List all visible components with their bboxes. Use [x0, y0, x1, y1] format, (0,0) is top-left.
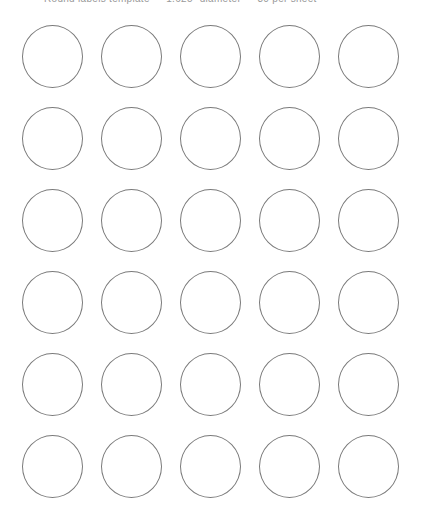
label-circle — [180, 353, 241, 416]
label-circle — [259, 189, 320, 252]
label-circle — [22, 107, 83, 170]
label-circle — [180, 25, 241, 88]
label-circle — [338, 189, 399, 252]
label-circle — [22, 25, 83, 88]
label-circle — [259, 353, 320, 416]
label-circle — [338, 353, 399, 416]
label-sheet — [0, 0, 423, 525]
label-circle — [180, 189, 241, 252]
label-circle — [180, 435, 241, 498]
label-circle — [101, 25, 162, 88]
label-circle — [101, 271, 162, 334]
label-circle — [338, 271, 399, 334]
label-circle — [180, 107, 241, 170]
label-circle — [101, 353, 162, 416]
label-circle — [338, 435, 399, 498]
label-circle — [101, 189, 162, 252]
label-circle — [22, 189, 83, 252]
label-circle — [22, 435, 83, 498]
label-circle — [22, 353, 83, 416]
label-circle — [338, 107, 399, 170]
label-circle — [259, 271, 320, 334]
label-circle — [101, 107, 162, 170]
label-circle — [259, 25, 320, 88]
label-circle — [101, 435, 162, 498]
label-circle — [180, 271, 241, 334]
label-circle — [338, 25, 399, 88]
label-circle — [259, 435, 320, 498]
label-circle — [259, 107, 320, 170]
label-circle — [22, 271, 83, 334]
